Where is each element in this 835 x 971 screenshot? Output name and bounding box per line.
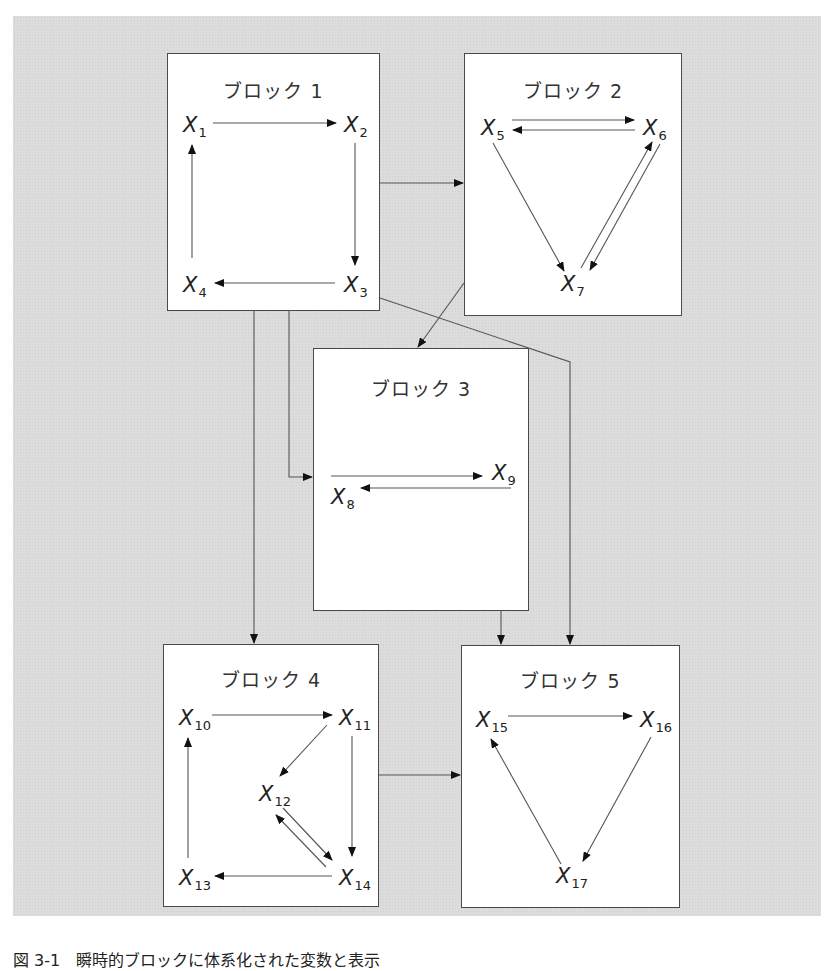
node-x15: X15 (476, 708, 508, 735)
block-1-title: ブロック 1 (168, 76, 379, 103)
node-x5: X5 (481, 116, 505, 143)
node-x17: X17 (556, 864, 588, 891)
node-x1: X1 (183, 113, 207, 140)
block-2-title: ブロック 2 (465, 76, 681, 103)
node-x2: X2 (344, 113, 368, 140)
block-5-title: ブロック 5 (462, 666, 679, 693)
node-x10: X10 (179, 706, 211, 733)
node-x11: X11 (339, 706, 371, 733)
node-x14: X14 (339, 866, 371, 893)
node-x9: X9 (492, 461, 516, 488)
node-x13: X13 (179, 866, 211, 893)
figure-caption: 図 3-1 瞬時的ブロックに体系化された変数と表示 (13, 947, 380, 971)
node-x8: X8 (331, 485, 355, 512)
node-x12: X12 (259, 782, 291, 809)
block-4-title: ブロック 4 (164, 665, 378, 692)
node-x3: X3 (344, 273, 368, 300)
node-x16: X16 (640, 708, 672, 735)
block-3-title: ブロック 3 (314, 374, 528, 401)
node-x6: X6 (643, 116, 667, 143)
node-x7: X7 (561, 272, 585, 299)
node-x4: X4 (183, 273, 207, 300)
